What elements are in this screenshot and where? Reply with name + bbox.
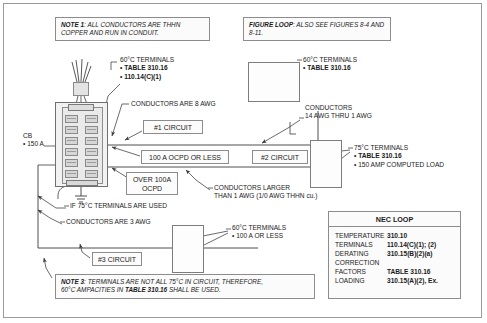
nec-loop-body: TEMPERATURE 310.10 TERMINALS 110.14(C)(1… xyxy=(329,227,460,288)
nec-loop-row: LOADING 310.15(A)(2), Ex. xyxy=(335,276,460,285)
nec-loop-value: 310.15(B)(2)(a) xyxy=(387,249,432,258)
breaker xyxy=(85,159,98,167)
nec-loop-row: DERATING 310.15(B)(2)(a) xyxy=(335,249,460,258)
breaker xyxy=(85,170,98,178)
breaker xyxy=(85,137,98,145)
note-3-label: NOTE 3 xyxy=(61,278,84,285)
callout-top-box-terminals: 60°C TERMINALS • TABLE 310.16 xyxy=(303,56,357,73)
cable-sheath xyxy=(73,82,89,96)
terminal-box-lower xyxy=(172,225,204,273)
note-3-box: NOTE 3: TERMINALS ARE NOT ALL 75°C IN CI… xyxy=(55,274,315,299)
nec-loop-key: FACTORS xyxy=(335,267,387,276)
callout-conductors-14-thru-1-line2: 14 AWG THRU 1 AWG xyxy=(305,112,372,120)
nec-loop-row: CORRECTION xyxy=(335,258,460,267)
chip-circuit-3[interactable]: #3 CIRCUIT xyxy=(92,252,142,266)
callout-cb: CB • 150 A xyxy=(23,132,44,149)
breaker xyxy=(65,170,78,178)
callout-conductors-14-thru-1: CONDUCTORS 14 AWG THRU 1 AWG xyxy=(305,104,372,121)
callout-terminals-60c-100a: 60°C TERMINALS • 100 A OR LESS xyxy=(232,224,286,241)
callout-cb-line2: • 150 A xyxy=(23,140,44,148)
panelboard-enclosure xyxy=(55,102,108,187)
nec-loop-row: TERMINALS 110.14(C)(1); (2) xyxy=(335,240,460,249)
chip-circuit-1[interactable]: #1 CIRCUIT xyxy=(143,120,203,134)
nec-loop-value: 310.15(A)(2), Ex. xyxy=(387,276,438,285)
figure-loop-label: FIGURE LOOP xyxy=(249,21,293,28)
callout-panel-terminals-line2: • TABLE 310.16 xyxy=(120,64,168,71)
neutral-ground-bar xyxy=(66,180,98,186)
callout-conductors-14-thru-1-line1: CONDUCTORS xyxy=(305,104,372,112)
callout-conductors-8awg: CONDUCTORS ARE 8 AWG xyxy=(131,100,216,108)
nec-loop-key: CORRECTION xyxy=(335,258,387,267)
breaker xyxy=(85,148,98,156)
chip-over-100a-ocpd-line1: OVER 100A xyxy=(133,175,171,184)
nec-loop-key: DERATING xyxy=(335,249,387,258)
callout-terminals-60c-100a-line2: • 100 A OR LESS xyxy=(232,232,286,240)
breaker xyxy=(65,115,78,123)
callout-top-box-terminals-line1: 60°C TERMINALS xyxy=(303,56,357,64)
callout-if-75c-used: IF 75°C TERMINALS ARE USED xyxy=(70,202,167,210)
nec-loop-row: FACTORS TABLE 310.16 xyxy=(335,267,460,276)
callout-cb-line1: CB xyxy=(23,132,44,140)
callout-terminals-60c-100a-line1: 60°C TERMINALS xyxy=(232,224,286,232)
note-3-text-a: : TERMINALS ARE NOT ALL 75°C IN CIRCUIT,… xyxy=(84,278,263,285)
callout-terminals-75c: 75°C TERMINALS • TABLE 310.16 • 150 AMP … xyxy=(354,144,444,169)
note-3-text-c: SHALL BE USED. xyxy=(167,286,221,293)
callout-conductors-larger-line1: CONDUCTORS LARGER xyxy=(214,184,317,192)
breaker xyxy=(85,126,98,134)
nec-loop-key: TEMPERATURE xyxy=(335,231,387,240)
nec-loop-value: 310.10 xyxy=(387,231,407,240)
breaker xyxy=(65,148,78,156)
chip-over-100a-ocpd[interactable]: OVER 100A OCPD xyxy=(126,172,178,195)
figure-loop-box: FIGURE LOOP: ALSO SEE FIGURES 8-4 AND 8-… xyxy=(243,17,391,41)
note-3-text-b: 60°C AMPACITIES IN xyxy=(61,286,125,293)
terminal-box-top-right xyxy=(248,62,300,102)
note-1-label: NOTE 1 xyxy=(61,21,84,28)
nec-loop-title: NEC LOOP xyxy=(329,212,460,227)
ground-symbol xyxy=(75,186,87,202)
note-3-table-ref: TABLE 310.16 xyxy=(125,286,167,293)
breaker xyxy=(65,126,78,134)
main-lug-terminal xyxy=(68,104,94,111)
diagram-canvas: NOTE 1: ALL CONDUCTORS ARE THHN COPPER A… xyxy=(0,0,487,323)
callout-panel-terminals: 60°C TERMINALS • TABLE 310.16 • 110.14(C… xyxy=(120,56,174,81)
callout-top-box-terminals-line2: • TABLE 310.16 xyxy=(303,64,351,71)
callout-terminals-75c-line2: • TABLE 310.16 xyxy=(354,152,402,159)
nec-loop-key: LOADING xyxy=(335,276,387,285)
nec-loop-value: TABLE 310.16 xyxy=(387,267,431,276)
callout-panel-terminals-line3: • 110.14(C)(1) xyxy=(120,73,161,80)
callout-conductors-larger: CONDUCTORS LARGER THAN 1 AWG (1/0 AWG TH… xyxy=(214,184,317,201)
breaker xyxy=(65,137,78,145)
callout-terminals-75c-line1: 75°C TERMINALS xyxy=(354,144,444,152)
chip-over-100a-ocpd-line2: OCPD xyxy=(142,184,162,193)
chip-100a-ocpd-or-less[interactable]: 100 A OCPD OR LESS xyxy=(141,150,229,164)
callout-terminals-75c-line3: • 150 AMP COMPUTED LOAD xyxy=(354,161,444,169)
nec-loop-row: TEMPERATURE 310.10 xyxy=(335,231,460,240)
chip-circuit-2[interactable]: #2 CIRCUIT xyxy=(252,150,308,164)
callout-conductors-3awg: CONDUCTORS ARE 3 AWG xyxy=(66,218,151,226)
nec-loop-value: 110.14(C)(1); (2) xyxy=(387,240,436,249)
breaker xyxy=(65,159,78,167)
nec-loop-table: NEC LOOP TEMPERATURE 310.10 TERMINALS 11… xyxy=(328,211,461,299)
nec-loop-key: TERMINALS xyxy=(335,240,387,249)
breaker xyxy=(85,115,98,123)
callout-panel-terminals-line1: 60°C TERMINALS xyxy=(120,56,174,64)
callout-conductors-larger-line2: THAN 1 AWG (1/0 AWG THHN cu.) xyxy=(214,192,317,200)
note-1-box: NOTE 1: ALL CONDUCTORS ARE THHN COPPER A… xyxy=(55,17,210,41)
terminal-box-right-middle xyxy=(310,140,342,188)
